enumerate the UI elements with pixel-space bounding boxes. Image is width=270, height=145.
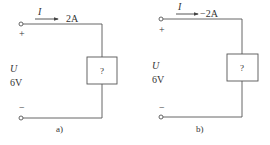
current-symbol-b: I [177, 1, 182, 12]
circuit-a: ? I 2A + U 6V − a) [10, 6, 117, 134]
minus-sign-b: − [159, 102, 165, 113]
circuit-diagram: ? I 2A + U 6V − a) ? I −2A + U 6V − b) [0, 0, 270, 145]
top-wire-b [163, 19, 242, 54]
caption-a: a) [56, 124, 63, 134]
current-value-a: 2A [66, 13, 79, 24]
bottom-wire-a [23, 84, 102, 118]
minus-sign-a: − [19, 102, 25, 113]
top-terminal-b [159, 17, 163, 21]
circuit-b: ? I −2A + U 6V − b) [152, 1, 258, 134]
voltage-symbol-b: U [152, 60, 160, 71]
top-wire-a [23, 24, 102, 57]
plus-sign-a: + [19, 28, 25, 39]
top-terminal-a [19, 22, 23, 26]
current-symbol-a: I [37, 6, 42, 17]
bottom-terminal-a [19, 116, 23, 120]
element-label-b: ? [240, 63, 244, 73]
plus-sign-b: + [159, 24, 165, 35]
current-value-b: −2A [200, 8, 219, 19]
element-label-a: ? [100, 66, 104, 76]
voltage-value-a: 6V [10, 77, 23, 88]
voltage-symbol-a: U [10, 63, 18, 74]
bottom-terminal-b [159, 115, 163, 119]
voltage-value-b: 6V [152, 74, 165, 85]
bottom-wire-b [163, 81, 242, 117]
caption-b: b) [196, 124, 204, 134]
